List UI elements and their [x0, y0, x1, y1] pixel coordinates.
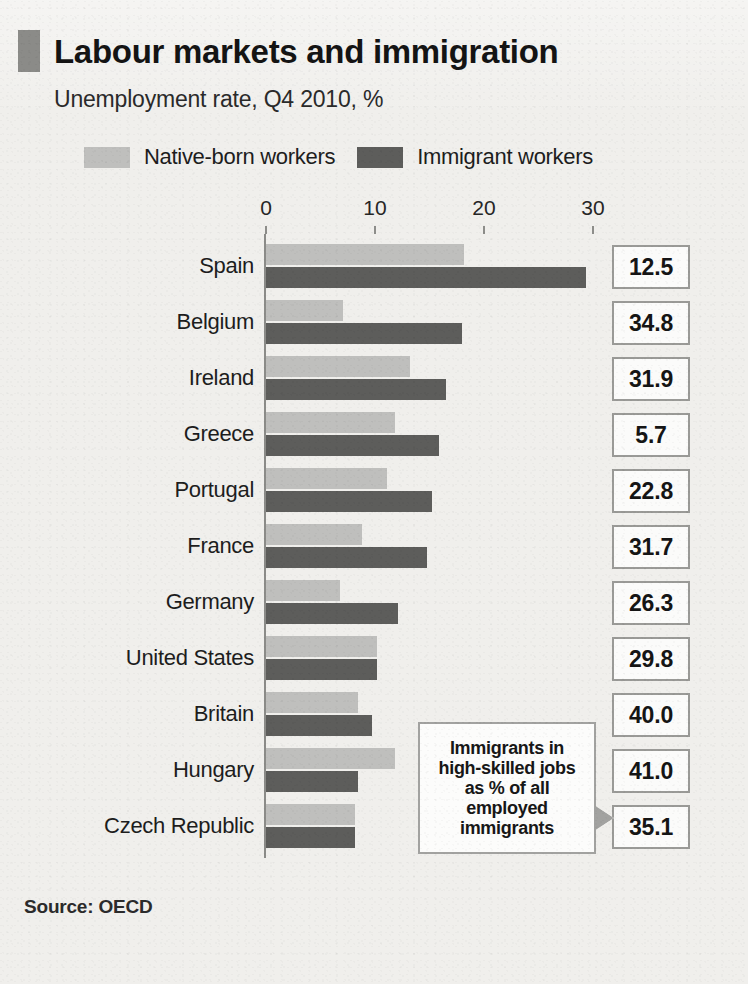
bar-immigrant: [266, 323, 462, 344]
chart-row: United States29.8: [0, 635, 748, 687]
category-label: United States: [126, 645, 254, 671]
value-box: 29.8: [612, 637, 690, 681]
bar-native-born: [266, 804, 355, 825]
category-label: Belgium: [177, 309, 254, 335]
value-box: 35.1: [612, 805, 690, 849]
category-label: Germany: [166, 589, 254, 615]
x-axis-tick-mark: [483, 226, 485, 234]
category-label: Britain: [194, 701, 254, 727]
bar-native-born: [266, 748, 395, 769]
x-axis-tick-mark: [374, 226, 376, 234]
chart-row: Portugal22.8: [0, 467, 748, 519]
chart-row: Greece5.7: [0, 411, 748, 463]
bar-native-born: [266, 636, 377, 657]
value-box: 12.5: [612, 245, 690, 289]
bar-immigrant: [266, 491, 432, 512]
source-note: Source: OECD: [24, 896, 153, 918]
chart-row: France31.7: [0, 523, 748, 575]
category-label: Czech Republic: [104, 813, 254, 839]
bar-native-born: [266, 692, 358, 713]
x-axis-tick-label: 10: [363, 196, 386, 220]
callout-text: Immigrants in high-skilled jobs as % of …: [439, 738, 576, 839]
category-label: France: [187, 533, 254, 559]
x-axis-tick-label: 30: [581, 196, 604, 220]
chart-row: Britain40.0: [0, 691, 748, 743]
bar-immigrant: [266, 827, 355, 848]
value-box: 40.0: [612, 693, 690, 737]
bar-native-born: [266, 412, 395, 433]
bar-native-born: [266, 356, 410, 377]
bar-immigrant: [266, 267, 586, 288]
chart-row: Belgium34.8: [0, 299, 748, 351]
category-label: Greece: [184, 421, 254, 447]
value-box: 31.9: [612, 357, 690, 401]
chart-row: Spain12.5: [0, 243, 748, 295]
bar-immigrant: [266, 771, 358, 792]
bar-native-born: [266, 524, 362, 545]
x-axis-tick-mark: [265, 226, 267, 234]
bar-native-born: [266, 244, 464, 265]
category-label: Ireland: [189, 365, 254, 391]
x-axis-tick-mark: [592, 226, 594, 234]
value-box: 22.8: [612, 469, 690, 513]
bar-immigrant: [266, 715, 372, 736]
bar-immigrant: [266, 379, 446, 400]
category-label: Spain: [199, 253, 254, 279]
chart-row: Czech Republic35.1: [0, 803, 748, 855]
callout-box: Immigrants in high-skilled jobs as % of …: [418, 722, 596, 854]
bar-immigrant: [266, 435, 439, 456]
bar-immigrant: [266, 659, 377, 680]
bar-immigrant: [266, 603, 398, 624]
value-box: 34.8: [612, 301, 690, 345]
chart-row: Ireland31.9: [0, 355, 748, 407]
category-label: Hungary: [173, 757, 254, 783]
bar-native-born: [266, 580, 340, 601]
value-box: 26.3: [612, 581, 690, 625]
x-axis-tick-label: 0: [260, 196, 272, 220]
bar-immigrant: [266, 547, 427, 568]
value-box: 31.7: [612, 525, 690, 569]
chart-row: Germany26.3: [0, 579, 748, 631]
category-label: Portugal: [174, 477, 254, 503]
chart-page: Labour markets and immigration Unemploym…: [0, 0, 748, 984]
bar-native-born: [266, 468, 387, 489]
value-box: 41.0: [612, 749, 690, 793]
plot-area: 0102030Spain12.5Belgium34.8Ireland31.9Gr…: [0, 0, 748, 984]
x-axis-tick-label: 20: [472, 196, 495, 220]
value-box: 5.7: [612, 413, 690, 457]
bar-native-born: [266, 300, 343, 321]
chart-row: Hungary41.0: [0, 747, 748, 799]
